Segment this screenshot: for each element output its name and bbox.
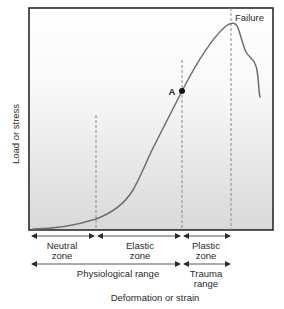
y-axis-label: Load or stress <box>3 94 27 174</box>
plastic-zone-label-line2: zone <box>184 250 228 261</box>
elastic-zone-label-line2: zone <box>118 250 162 261</box>
y-axis-label-text: Load or stress <box>10 104 21 164</box>
load-deformation-chart <box>0 0 284 309</box>
plot-area <box>29 8 273 230</box>
failure-label: Failure <box>235 12 271 23</box>
point-a-marker <box>179 88 185 94</box>
physiological-range-label: Physiological range <box>60 268 176 279</box>
point-a-label: A <box>167 86 177 97</box>
neutral-zone-label-line2: zone <box>40 250 84 261</box>
x-axis-label: Deformation or strain <box>100 292 210 303</box>
trauma-range-label-line2: range <box>184 278 228 289</box>
